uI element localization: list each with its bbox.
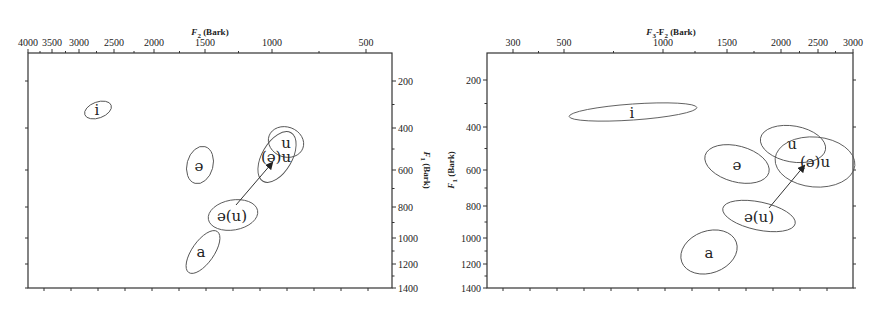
left-plot-frame bbox=[28, 53, 392, 288]
x-tick-label: 1500 bbox=[195, 37, 215, 48]
vowel-label: (ə)u bbox=[261, 148, 292, 166]
x-tick-label: 4000 bbox=[18, 37, 38, 48]
vowel-i: i bbox=[82, 98, 114, 123]
y-tick-label: 200 bbox=[398, 76, 413, 87]
vowel-schwa: ə bbox=[183, 143, 218, 186]
y-tick-label: 400 bbox=[466, 122, 481, 133]
y-tick-label: 1200 bbox=[461, 259, 481, 270]
right-plot-frame bbox=[487, 53, 853, 288]
x-tick-label: 500 bbox=[359, 37, 374, 48]
x-tick-label: 2000 bbox=[771, 37, 791, 48]
x-tick-label: 2500 bbox=[104, 37, 124, 48]
x-tick-label: 3500 bbox=[42, 37, 62, 48]
vowel-schwa: ə bbox=[700, 138, 773, 190]
right-y-axis-ticks: 200400600800100012001400 bbox=[461, 75, 856, 294]
y-tick-label: 600 bbox=[466, 165, 481, 176]
y-tick-label: 1000 bbox=[398, 233, 418, 244]
right-trajectory-arrow bbox=[769, 166, 804, 208]
vowel-label: a bbox=[197, 243, 206, 261]
left-plot-f2-f1: F2 (Bark) 400035003000250020001500100050… bbox=[18, 27, 432, 294]
left-trajectory-arrow bbox=[236, 163, 272, 205]
vowel-label: a bbox=[705, 244, 714, 262]
y-tick-label: 600 bbox=[398, 165, 413, 176]
x-tick-label: 500 bbox=[557, 37, 572, 48]
y-tick-label: 800 bbox=[466, 201, 481, 212]
vowel-label: u bbox=[787, 135, 797, 153]
vowel-schwa-u: (ə)u bbox=[773, 134, 857, 191]
y-tick-label: 200 bbox=[466, 75, 481, 86]
x-tick-label: 1000 bbox=[653, 37, 673, 48]
vowel-label: (ə)u bbox=[800, 153, 831, 171]
x-tick-label: 3000 bbox=[843, 37, 863, 48]
right-vowel-ellipses: iəu(ə)uə(u)a bbox=[569, 100, 857, 282]
x-tick-label: 300 bbox=[506, 37, 521, 48]
vowel-a: a bbox=[675, 222, 744, 281]
vowel-label: ə bbox=[195, 157, 204, 175]
y-tick-label: 1200 bbox=[398, 259, 418, 270]
left-vowel-ellipses: iəu(ə)uə(u)a bbox=[82, 98, 308, 279]
vowel-label: i bbox=[630, 104, 635, 122]
vowel-a: a bbox=[180, 225, 227, 279]
x-tick-label: 2500 bbox=[808, 37, 828, 48]
vowel-label: ə bbox=[733, 156, 742, 174]
x-tick-label: 1000 bbox=[262, 37, 282, 48]
vowel-label: ə(u) bbox=[744, 208, 774, 226]
y-tick-label: 400 bbox=[398, 123, 413, 134]
vowel-label: ə(u) bbox=[217, 207, 247, 225]
vowel-formant-charts: F2 (Bark) 400035003000250020001500100050… bbox=[0, 0, 876, 314]
vowel-schwa-paren-u: ə(u) bbox=[206, 196, 260, 234]
left-y-axis-title: F1 (Bark) bbox=[419, 150, 432, 188]
x-tick-label: 1500 bbox=[717, 37, 737, 48]
x-tick-label: 2000 bbox=[144, 37, 164, 48]
right-plot-f3f2-f1: F3-F2 (Bark) 30050010001500200025003000 … bbox=[446, 27, 863, 294]
left-y-axis-ticks: 200400600800100012001400 bbox=[25, 76, 418, 294]
vowel-i: i bbox=[569, 100, 698, 125]
y-tick-label: 1400 bbox=[461, 283, 481, 294]
vowel-label: i bbox=[95, 101, 100, 119]
y-tick-label: 800 bbox=[398, 202, 413, 213]
vowel-schwa-paren-u: ə(u) bbox=[720, 195, 798, 238]
y-tick-label: 1400 bbox=[398, 283, 418, 294]
right-y-axis-title: F1 (Bark) bbox=[446, 151, 459, 189]
y-tick-label: 1000 bbox=[461, 233, 481, 244]
x-tick-label: 3000 bbox=[69, 37, 89, 48]
